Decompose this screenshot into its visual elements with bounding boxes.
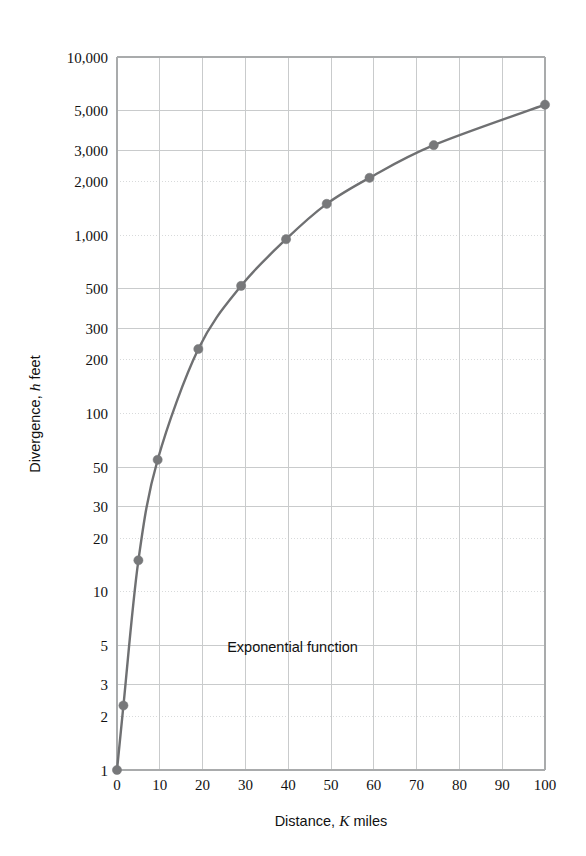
x-tick-label: 60 bbox=[366, 777, 381, 793]
data-point-marker bbox=[365, 173, 374, 182]
chart-figure: 1235102030501002003005001,0002,0003,0005… bbox=[0, 0, 586, 856]
y-tick-label: 2,000 bbox=[74, 174, 108, 190]
x-tick-label: 20 bbox=[195, 777, 210, 793]
data-point-marker bbox=[134, 556, 143, 565]
y-tick-label: 2 bbox=[101, 709, 109, 725]
data-point-marker bbox=[112, 765, 121, 774]
data-point-marker bbox=[194, 344, 203, 353]
y-tick-label: 500 bbox=[86, 281, 109, 297]
y-axis-title: Divergence, h feet bbox=[26, 355, 43, 472]
y-tick-label: 3,000 bbox=[74, 143, 108, 159]
data-point-marker bbox=[540, 100, 549, 109]
y-tick-label: 100 bbox=[86, 406, 109, 422]
x-tick-label: 0 bbox=[113, 777, 121, 793]
y-tick-label: 200 bbox=[86, 352, 109, 368]
x-tick-label: 100 bbox=[534, 777, 557, 793]
x-tick-label: 90 bbox=[495, 777, 510, 793]
data-point-marker bbox=[153, 455, 162, 464]
x-tick-label: 80 bbox=[452, 777, 467, 793]
y-tick-label: 30 bbox=[93, 499, 108, 515]
x-axis-title: Distance, K miles bbox=[275, 812, 388, 829]
data-point-marker bbox=[119, 701, 128, 710]
data-point-marker bbox=[429, 141, 438, 150]
y-tick-label: 300 bbox=[86, 321, 109, 337]
y-tick-label: 1,000 bbox=[74, 228, 108, 244]
y-tick-label: 5 bbox=[101, 638, 109, 654]
data-point-marker bbox=[237, 281, 246, 290]
data-point-marker bbox=[322, 199, 331, 208]
y-tick-label: 1 bbox=[101, 763, 109, 779]
x-tick-label: 10 bbox=[152, 777, 167, 793]
exponential-function-annotation: Exponential function bbox=[227, 639, 358, 655]
x-tick-label: 30 bbox=[238, 777, 253, 793]
x-tick-label: 50 bbox=[324, 777, 339, 793]
data-point-marker bbox=[281, 235, 290, 244]
y-tick-label: 50 bbox=[93, 460, 108, 476]
y-tick-label: 3 bbox=[101, 677, 109, 693]
y-tick-label: 10,000 bbox=[67, 50, 108, 66]
x-tick-label: 40 bbox=[281, 777, 296, 793]
x-tick-label: 70 bbox=[409, 777, 424, 793]
y-tick-label: 10 bbox=[93, 584, 108, 600]
exponential-divergence-chart: 1235102030501002003005001,0002,0003,0005… bbox=[0, 0, 586, 856]
y-tick-label: 5,000 bbox=[74, 103, 108, 119]
chart-background bbox=[0, 0, 586, 856]
y-tick-label: 20 bbox=[93, 531, 108, 547]
